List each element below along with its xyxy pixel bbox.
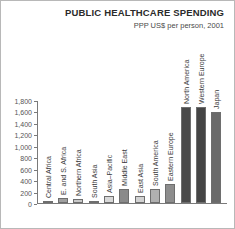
y-axis-label: 1,400	[14, 120, 32, 127]
bar-category-label: Western Europe	[197, 53, 204, 103]
bar-category-label: E. and S. Africa	[59, 147, 66, 195]
y-axis-label: 400	[20, 178, 32, 185]
bar-group: Central Africa	[40, 101, 55, 203]
bar-category-label: Northern Africa	[75, 149, 82, 196]
bar-category-label: Asia–Pacific	[105, 155, 112, 193]
bar-category-label: Eastern Europe	[167, 133, 174, 182]
y-axis-tick	[34, 112, 37, 113]
x-axis-line	[37, 203, 227, 204]
bar	[73, 199, 83, 203]
y-axis-tick	[34, 204, 37, 205]
bar	[181, 107, 191, 203]
y-axis-tick	[34, 193, 37, 194]
y-axis-label: 600	[20, 166, 32, 173]
chart-container: PUBLIC HEALTHCARE SPENDING PPP US$ per p…	[0, 0, 235, 229]
bar-group: Western Europe	[193, 101, 208, 203]
y-axis-label: 800	[20, 155, 32, 162]
chart-header: PUBLIC HEALTHCARE SPENDING PPP US$ per p…	[65, 7, 224, 30]
y-axis-tick	[34, 147, 37, 148]
y-axis-tick	[34, 158, 37, 159]
y-axis-label: 1,600	[14, 109, 32, 116]
bar-category-label: East Asia	[136, 164, 143, 193]
bar-group: South Asia	[86, 101, 101, 203]
bar	[119, 189, 129, 203]
bar-category-label: North America	[182, 59, 189, 103]
bar	[43, 201, 53, 203]
bar-category-label: Middle East	[121, 149, 128, 186]
bar-group: Middle East	[117, 101, 132, 203]
chart-subtitle: PPP US$ per person, 2001	[65, 21, 224, 30]
y-axis-tick	[34, 124, 37, 125]
y-axis-label: 1,800	[14, 98, 32, 105]
y-axis-label: 200	[20, 189, 32, 196]
y-axis-label: 0	[28, 201, 32, 208]
bar-group: Asia–Pacific	[101, 101, 116, 203]
bar-group: Eastern Europe	[163, 101, 178, 203]
bar-group: North America	[178, 101, 193, 203]
bar	[104, 196, 114, 203]
plot-area: 1,8001,6001,4001,2001,0008006004002000 C…	[37, 101, 227, 204]
bar-group: Japan	[209, 101, 224, 203]
bar	[165, 184, 175, 203]
bar-category-label: South Asia	[90, 165, 97, 198]
bar	[89, 201, 99, 203]
bar-series: Central AfricaE. and S. AfricaNorthern A…	[38, 101, 226, 203]
y-axis-tick	[34, 170, 37, 171]
y-axis-tick	[34, 101, 37, 102]
bar-category-label: Japan	[213, 90, 220, 109]
chart-title: PUBLIC HEALTHCARE SPENDING	[65, 7, 224, 18]
bar-category-label: Central Africa	[44, 156, 51, 198]
y-axis-tick	[34, 135, 37, 136]
bar-group: South America	[147, 101, 162, 203]
y-axis-label: 1,200	[14, 132, 32, 139]
bar-group: E. and S. Africa	[55, 101, 70, 203]
bar	[196, 107, 206, 203]
bar-category-label: South America	[151, 140, 158, 186]
bar-group: East Asia	[132, 101, 147, 203]
bar	[58, 198, 68, 203]
bar-group: Northern Africa	[71, 101, 86, 203]
bar	[135, 196, 145, 203]
y-axis-label: 1,000	[14, 143, 32, 150]
y-axis-tick	[34, 181, 37, 182]
bar	[150, 189, 160, 203]
bar	[211, 112, 221, 203]
